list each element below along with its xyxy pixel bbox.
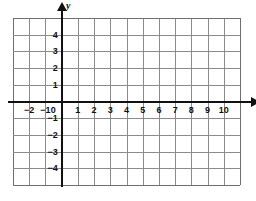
x-axis-tick-label: 3 — [108, 106, 113, 115]
x-axis-arrow-icon — [251, 97, 256, 107]
y-axis-tick-label: −3 — [40, 147, 58, 156]
y-axis-tick-label: −1 — [40, 114, 58, 123]
x-axis-tick-label: 1 — [75, 106, 80, 115]
x-axis-tick-label: 6 — [156, 106, 161, 115]
x-axis-tick-label: 5 — [140, 106, 145, 115]
grid-line-horizontal — [13, 18, 240, 19]
x-axis-tick-label: 8 — [189, 106, 194, 115]
x-axis-tick-label: −2 — [24, 106, 34, 115]
grid-line-horizontal — [13, 185, 240, 186]
x-axis-line — [8, 101, 251, 103]
y-axis-line — [61, 10, 63, 187]
y-axis-tick-label: 2 — [40, 64, 58, 73]
y-axis-tick-label: 3 — [40, 47, 58, 56]
x-axis-tick-label: 4 — [124, 106, 129, 115]
x-axis-tick-label: 10 — [219, 106, 229, 115]
y-axis-tick-label: −4 — [40, 164, 58, 173]
y-axis-label: y — [66, 1, 70, 11]
x-axis-tick-label: 2 — [92, 106, 97, 115]
y-axis-tick-label: 1 — [40, 80, 58, 89]
x-axis-tick-label: 7 — [173, 106, 178, 115]
y-axis-tick-label: −2 — [40, 130, 58, 139]
coordinate-plane-figure: x y 0 −2−1123456789104321−1−2−3−4 — [0, 0, 256, 201]
y-axis-tick-label: 4 — [40, 30, 58, 39]
x-axis-tick-label: 9 — [205, 106, 210, 115]
